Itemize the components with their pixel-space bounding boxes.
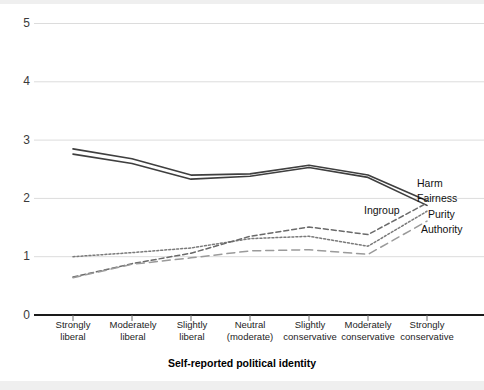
xtick-line-1: Moderately — [110, 319, 157, 330]
xtick-line-1: Strongly — [410, 319, 445, 330]
xtick-line-1: Slightly — [177, 319, 208, 330]
series-line-harm — [73, 149, 427, 201]
series-label-purity: Purity — [428, 209, 455, 220]
x-axis-title: Self-reported political identity — [0, 357, 484, 369]
series-line-authority — [73, 221, 427, 278]
xtick-label-strongly-conservative: Strongly conservative — [388, 319, 466, 342]
series-label-fairness: Fairness — [417, 193, 457, 204]
series-label-ingroup: Ingroup — [364, 205, 400, 216]
series-label-authority: Authority — [421, 224, 462, 235]
xtick-line-2: liberal — [60, 331, 85, 342]
series-line-ingroup — [73, 211, 427, 256]
xtick-line-2: liberal — [179, 331, 204, 342]
xtick-line-2: liberal — [120, 331, 145, 342]
xtick-line-1: Moderately — [345, 319, 392, 330]
chart-container: 5 4 3 2 1 0 Strongly liberal Moderately … — [0, 0, 484, 390]
xtick-line-2: conservative — [400, 331, 453, 342]
series-label-harm: Harm — [417, 178, 443, 189]
xtick-line-1: Neutral — [235, 319, 266, 330]
xtick-line-2: conservative — [341, 331, 394, 342]
xtick-line-1: Slightly — [295, 319, 326, 330]
xtick-line-1: Strongly — [56, 319, 91, 330]
series-line-fairness — [73, 154, 427, 205]
xtick-line-2: (moderate) — [227, 331, 273, 342]
